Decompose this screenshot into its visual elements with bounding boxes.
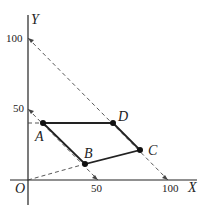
diagram-canvas: A B C D Y X O 100 50 50 100 bbox=[0, 0, 210, 215]
point-a bbox=[40, 120, 46, 126]
arrowhead-50-top bbox=[28, 109, 34, 114]
arrowhead-50-bottom bbox=[92, 175, 98, 180]
dashed-line-origin-b bbox=[28, 164, 85, 180]
label-b: B bbox=[84, 146, 93, 161]
x-axis-label: X bbox=[187, 180, 197, 195]
x-tick-100: 100 bbox=[162, 182, 179, 194]
arrowhead-100-bottom bbox=[162, 175, 168, 180]
point-b bbox=[82, 161, 88, 167]
arrowhead-100-top bbox=[28, 38, 34, 43]
dashed-line-100 bbox=[28, 38, 168, 180]
y-tick-50: 50 bbox=[13, 102, 25, 114]
y-axis-label: Y bbox=[31, 12, 41, 27]
label-c: C bbox=[148, 143, 158, 158]
x-tick-50: 50 bbox=[91, 182, 103, 194]
label-d: D bbox=[117, 109, 128, 124]
label-a: A bbox=[34, 129, 44, 144]
origin-label: O bbox=[15, 181, 25, 196]
y-tick-100: 100 bbox=[6, 32, 23, 44]
point-d bbox=[110, 120, 116, 126]
point-c bbox=[137, 147, 143, 153]
dashed-line-50 bbox=[28, 109, 98, 180]
